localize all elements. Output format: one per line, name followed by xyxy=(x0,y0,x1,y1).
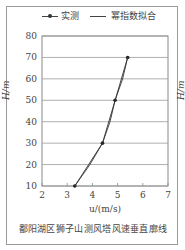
y-tick-label: 20 xyxy=(26,160,38,170)
y-tick-label: 60 xyxy=(26,74,38,84)
x-tick-label: 2 xyxy=(39,190,45,200)
y-tick-label: 50 xyxy=(26,95,38,105)
plot-border xyxy=(42,36,168,186)
x-tick-label: 3 xyxy=(64,190,70,200)
x-axis-label: u/(m/s) xyxy=(0,204,185,214)
y-tick-label: 30 xyxy=(26,138,38,148)
y-tick-label: 40 xyxy=(26,117,38,127)
x-tick-label: 5 xyxy=(115,190,121,200)
y-tick-label: 10 xyxy=(26,181,38,191)
x-tick-label: 4 xyxy=(90,190,96,200)
y-tick-label: 70 xyxy=(26,52,38,62)
x-tick-label: 7 xyxy=(165,190,171,200)
y-tick-label: 80 xyxy=(26,31,38,41)
x-tick-label: 6 xyxy=(140,190,146,200)
chart-caption: 鄱阳湖区狮子山测风塔风速垂直廓线 xyxy=(7,222,179,235)
y-axis-label: H/m xyxy=(1,81,11,100)
y-axis-label-right-partial: H/m xyxy=(176,81,185,100)
